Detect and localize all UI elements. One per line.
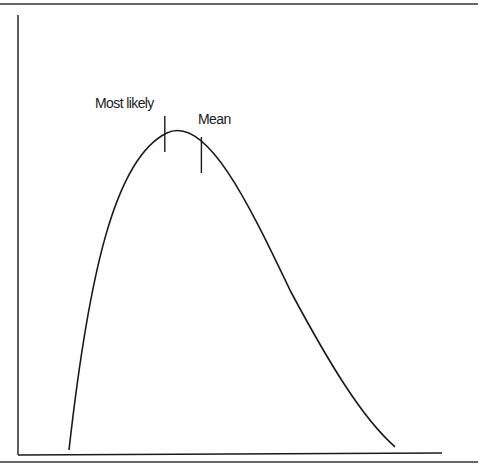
most-likely-label: Most likely [95,95,154,111]
mean-label: Mean [198,111,231,127]
distribution-chart: Most likely Mean [0,0,490,472]
x-axis [18,453,442,455]
distribution-curve [69,130,395,450]
